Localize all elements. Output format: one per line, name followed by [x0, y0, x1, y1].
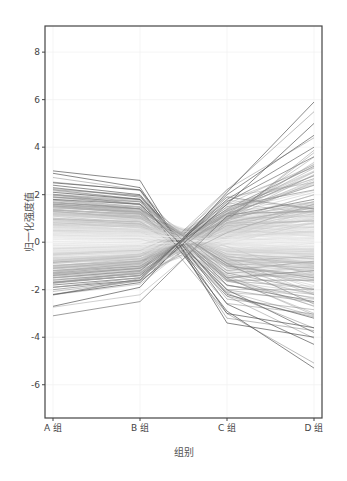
x-axis-title: 组别: [174, 446, 194, 458]
y-tick-label: 0: [34, 237, 40, 247]
x-tick-label: C 组: [218, 422, 236, 433]
y-tick-label: -6: [31, 380, 40, 390]
x-tick-label: D 组: [305, 422, 324, 433]
y-tick-label: 8: [34, 47, 40, 57]
y-tick-label: -2: [31, 285, 40, 295]
y-tick-label: -4: [31, 332, 40, 342]
y-tick-label: 2: [34, 190, 40, 200]
x-tick-label: B 组: [131, 422, 149, 433]
y-tick-label: 6: [34, 95, 40, 105]
y-axis-title: 归一化强度值: [23, 192, 35, 252]
x-tick-label: A 组: [44, 422, 62, 433]
y-tick-label: 4: [34, 142, 40, 152]
x-axis: A 组B 组C 组D 组: [44, 418, 323, 433]
line-chart: -6-4-202468 A 组B 组C 组D 组 组别 归一化强度值: [0, 0, 347, 481]
